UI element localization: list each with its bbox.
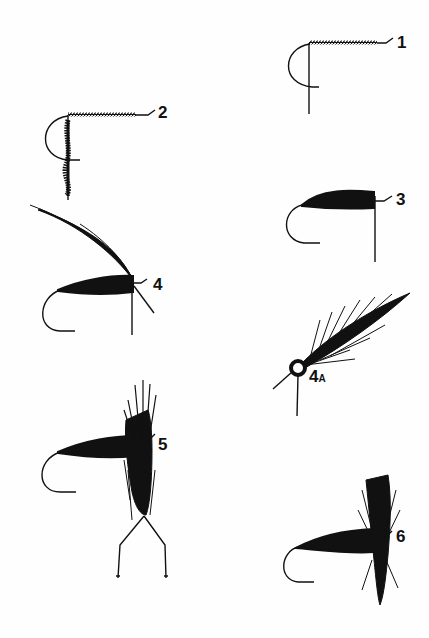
- fly-tying-diagram: 1 2 3 4 4A 5 6: [0, 0, 429, 638]
- step-5-hook: [42, 380, 168, 578]
- step-3-label: 3: [396, 191, 405, 208]
- step-3-hook: [287, 191, 393, 262]
- fly-tying-illustration: [0, 0, 429, 638]
- step-4a-label: 4A: [309, 368, 326, 385]
- step-5-label: 5: [158, 436, 167, 453]
- step-4-label: 4: [153, 276, 162, 293]
- step-6-fly: [284, 475, 400, 605]
- step-2-label: 2: [158, 104, 167, 121]
- step-1-hook: [289, 38, 394, 114]
- step-4-hook: [30, 205, 154, 335]
- step-2-hook: [46, 110, 156, 200]
- step-4a-detail: [273, 293, 410, 416]
- step-1-label: 1: [397, 34, 406, 51]
- step-6-label: 6: [396, 528, 405, 545]
- step-4a-suffix: A: [318, 373, 325, 384]
